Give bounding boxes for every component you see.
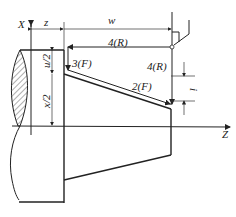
x-axis-label: X — [17, 18, 26, 30]
svg-text:z: z — [43, 16, 49, 28]
dimension-i: i — [171, 62, 200, 115]
svg-text:u/2: u/2 — [40, 53, 52, 68]
svg-text:x/2: x/2 — [40, 94, 52, 109]
label-step1: 4(R) — [108, 36, 128, 49]
dimension-x-half: x/2 — [40, 74, 52, 125]
label-step4: 4(R) — [147, 60, 167, 73]
taper-turning-diagram: X Z z w u/2 — [0, 0, 236, 217]
z-axis-label: Z — [222, 128, 229, 140]
label-step2: 3(F) — [71, 57, 92, 70]
z-axis: Z — [12, 126, 230, 140]
svg-text:w: w — [108, 14, 116, 26]
tool-path — [68, 45, 174, 104]
dimension-z: z — [31, 16, 63, 29]
dimension-u-half: u/2 — [40, 50, 52, 73]
svg-text:i: i — [188, 88, 200, 91]
cutting-tool — [172, 12, 189, 45]
label-step3: 2(F) — [132, 80, 152, 93]
